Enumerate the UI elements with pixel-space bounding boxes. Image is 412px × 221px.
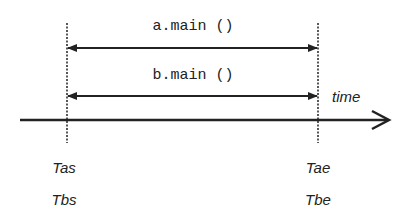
timeline-diagram: a.main () b.main () time Tas Tbs Tae Tbe [0, 0, 412, 221]
interval-a-label: a.main () [152, 18, 233, 35]
end-label-b: Tbe [305, 191, 331, 208]
start-label-b: Tbs [51, 191, 77, 208]
interval-b-label: b.main () [152, 67, 233, 84]
axis-label: time [332, 88, 360, 105]
end-label-a: Tae [306, 159, 330, 176]
start-label-a: Tas [52, 159, 76, 176]
